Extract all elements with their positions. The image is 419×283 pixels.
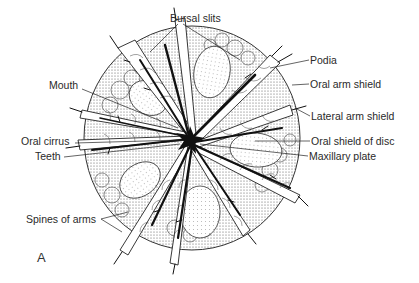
label-oral-shield-of-disc: Oral shield of disc <box>311 135 394 147</box>
label-lateral-arm-shield: Lateral arm shield <box>311 110 394 122</box>
label-oral-cirrus: Oral cirrus <box>21 135 69 147</box>
label-bursal-slits: Bursal slits <box>170 12 221 24</box>
label-spines-of-arms: Spines of arms <box>26 213 96 225</box>
label-teeth: Teeth <box>35 150 61 162</box>
label-mouth: Mouth <box>49 79 78 91</box>
panel-letter: A <box>37 250 46 265</box>
label-podia: Podia <box>310 54 337 66</box>
label-maxillary-plate: Maxillary plate <box>309 150 376 162</box>
label-oral-arm-shield: Oral arm shield <box>310 78 381 90</box>
